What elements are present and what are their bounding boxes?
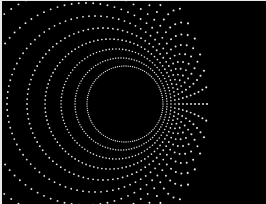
dot-ring [74, 57, 167, 150]
left-border [0, 0, 2, 204]
dot-ring-image [0, 0, 266, 204]
dot-ring [60, 48, 172, 160]
concentric-dot-rings [0, 0, 266, 204]
dot-ring [164, 0, 204, 199]
dot-ring [6, 15, 184, 193]
top-border [0, 0, 266, 1]
dot-ring [3, 0, 192, 204]
dot-ring [86, 65, 163, 142]
dot-ring [44, 38, 176, 170]
dot-ring [0, 2, 188, 204]
